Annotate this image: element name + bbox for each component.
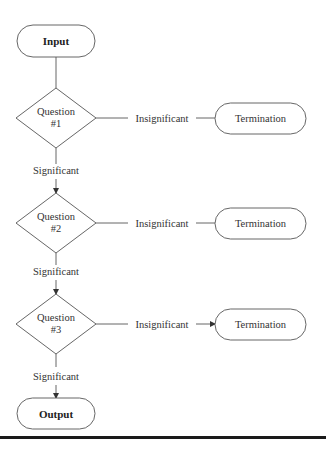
termination-2-node: Termination — [215, 208, 306, 239]
termination-1-label: Termination — [235, 113, 287, 124]
input-node: Input — [17, 25, 95, 57]
q1-insignificant-label: Insignificant — [135, 113, 188, 124]
question-1-title: Question — [37, 106, 76, 117]
question-3-title: Question — [37, 312, 76, 323]
termination-2-label: Termination — [235, 218, 287, 229]
output-label: Output — [39, 408, 74, 420]
question-3-node: Question #3 — [16, 294, 96, 354]
input-label: Input — [43, 35, 70, 47]
termination-1-node: Termination — [215, 103, 306, 134]
q3-insignificant-label: Insignificant — [135, 319, 188, 330]
question-2-node: Question #2 — [16, 193, 96, 253]
question-1-number: #1 — [51, 118, 62, 129]
termination-3-node: Termination — [215, 309, 306, 340]
q2-insignificant-label: Insignificant — [135, 218, 188, 229]
question-3-number: #3 — [51, 324, 62, 335]
q3-significant-label: Significant — [33, 371, 79, 382]
question-2-number: #2 — [51, 223, 62, 234]
q2-significant-label: Significant — [33, 266, 79, 277]
output-node: Output — [17, 398, 95, 429]
q1-significant-label: Significant — [33, 165, 79, 176]
termination-3-label: Termination — [235, 319, 287, 330]
question-1-node: Question #1 — [16, 88, 96, 148]
flowchart: Input Question #1 Insignificant Terminat… — [0, 0, 326, 450]
bottom-rule — [0, 436, 326, 439]
question-2-title: Question — [37, 211, 76, 222]
